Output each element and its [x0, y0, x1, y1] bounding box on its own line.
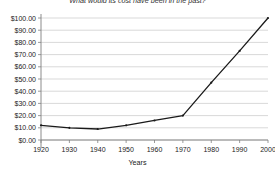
- svg-text:1990: 1990: [232, 146, 248, 153]
- svg-text:1930: 1930: [62, 146, 78, 153]
- x-axis-labels-group: 192019301940195019601970198019902000: [33, 146, 275, 153]
- svg-text:1940: 1940: [90, 146, 106, 153]
- svg-text:$40.00: $40.00: [15, 88, 37, 95]
- svg-text:$60.00: $60.00: [15, 63, 37, 70]
- svg-text:$0.00: $0.00: [18, 137, 36, 144]
- svg-text:2000: 2000: [260, 146, 275, 153]
- svg-text:1960: 1960: [147, 146, 163, 153]
- svg-text:$100.00: $100.00: [11, 15, 36, 22]
- svg-text:$20.00: $20.00: [15, 112, 37, 119]
- y-axis-labels-group: $100.00$90.00$80.00$70.00$60.00$50.00$40…: [11, 15, 36, 144]
- svg-text:1980: 1980: [203, 146, 219, 153]
- svg-text:$30.00: $30.00: [15, 100, 37, 107]
- svg-text:$50.00: $50.00: [15, 76, 37, 83]
- svg-text:1950: 1950: [118, 146, 134, 153]
- data-series-line: [41, 18, 268, 129]
- svg-text:$80.00: $80.00: [15, 39, 37, 46]
- x-axis-title: Years: [0, 158, 275, 167]
- gridlines-group: [41, 18, 268, 140]
- svg-text:$10.00: $10.00: [15, 124, 37, 131]
- data-point-markers-group: [40, 17, 269, 130]
- svg-text:$70.00: $70.00: [15, 51, 37, 58]
- svg-text:$90.00: $90.00: [15, 27, 37, 34]
- svg-text:1970: 1970: [175, 146, 191, 153]
- line-chart-plot: $100.00$90.00$80.00$70.00$60.00$50.00$40…: [0, 0, 275, 173]
- chart-container: What would its cost have been in the pas…: [0, 0, 275, 173]
